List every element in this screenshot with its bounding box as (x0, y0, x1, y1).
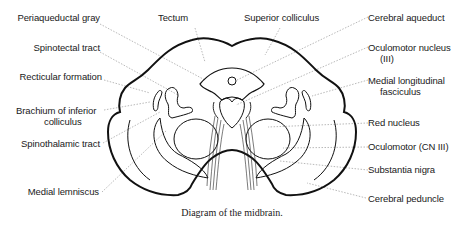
label-oculomotor-cn-iii: Oculomotor (CN III) (368, 141, 448, 152)
label-recticular-formation: Recticular formation (20, 71, 102, 82)
left-reticular-shape (165, 87, 192, 118)
left-substantia-nigra (154, 118, 208, 178)
label-periaqueductal-gray: Periaqueductal gray (17, 12, 100, 23)
midbrain-outline (108, 38, 356, 195)
cerebral-aqueduct-shape (228, 77, 236, 85)
oculomotor-fibers (207, 116, 257, 190)
label-tectum: Tectum (158, 12, 188, 23)
label-medial-longitudinal-fasciculus: Medial longitudinal fasciculus (368, 75, 445, 97)
right-spinotectal-shape (302, 91, 311, 111)
label-spinothalamic-tract: Spinothalamic tract (21, 138, 100, 149)
label-medial-lemniscus: Medial lemniscus (28, 186, 99, 197)
label-spinotectal-tract: Spinotectal tract (34, 42, 100, 53)
label-substantia-nigra: Substantia nigra (368, 164, 435, 175)
label-oculomotor-nucleus: Oculomotor nucleus (III) (368, 42, 451, 64)
label-superior-colliculus: Superior colliculus (244, 12, 319, 23)
label-brachium-inferior-colliculus: Brachium of inferior colliculus (16, 105, 96, 127)
diagram-caption: Diagram of the midbrain. (0, 207, 464, 218)
label-red-nucleus: Red nucleus (368, 117, 420, 128)
label-cerebral-peduncle: Cerebral peduncle (368, 193, 444, 204)
label-cerebral-aqueduct: Cerebral aqueduct (368, 12, 444, 23)
periaqueductal-gray-region (200, 68, 264, 100)
right-reticular-shape (271, 87, 298, 118)
left-spinotectal-shape (153, 91, 162, 111)
